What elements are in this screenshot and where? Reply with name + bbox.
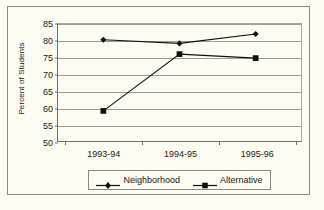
x-tick-label: 1993-94	[87, 149, 120, 159]
plot-area: 5055606570758085 1993-941994-951995-96	[57, 23, 302, 142]
x-tick-mark	[219, 141, 220, 145]
x-tick-label: 1995-96	[241, 149, 274, 159]
legend-label-neighborhood: Neighborhood	[123, 175, 180, 185]
chart-figure: Percent of Students 5055606570758085 199…	[0, 0, 324, 210]
data-point-marker	[253, 31, 259, 37]
data-point-marker	[176, 40, 182, 46]
y-axis-title: Percent of Students	[17, 29, 26, 129]
data-point-marker	[100, 108, 106, 114]
y-tick-label: 75	[43, 53, 53, 63]
y-tick-label: 50	[43, 138, 53, 148]
chart-legend: Neighborhood Alternative	[88, 170, 271, 190]
x-tick-mark	[142, 141, 143, 145]
data-point-marker	[100, 37, 106, 43]
y-tick-label: 85	[43, 19, 53, 29]
y-tick-label: 65	[43, 87, 53, 97]
diamond-marker-icon	[96, 176, 120, 185]
legend-label-alternative: Alternative	[220, 175, 263, 185]
y-tick-mark	[55, 143, 58, 144]
legend-entry-alternative[interactable]: Alternative	[193, 175, 263, 185]
data-point-marker	[177, 51, 183, 57]
series-layer	[58, 24, 301, 141]
square-marker-icon	[193, 176, 217, 185]
y-tick-label: 55	[43, 121, 53, 131]
y-tick-label: 80	[43, 36, 53, 46]
x-tick-label: 1994-95	[164, 149, 197, 159]
data-point-marker	[253, 55, 259, 61]
series-line-alternative	[103, 54, 255, 111]
legend-entry-neighborhood[interactable]: Neighborhood	[96, 175, 180, 185]
x-tick-mark	[65, 141, 66, 145]
x-tick-mark	[296, 141, 297, 145]
y-tick-label: 70	[43, 70, 53, 80]
y-tick-label: 60	[43, 104, 53, 114]
